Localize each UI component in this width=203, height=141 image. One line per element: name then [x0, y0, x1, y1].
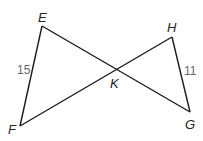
measure-label-ef: 15	[17, 63, 31, 77]
vertex-label-f: F	[8, 122, 17, 137]
measure-label-hg: 11	[184, 64, 197, 78]
geometry-diagram: E F H G K 15 11	[0, 0, 203, 141]
vertex-label-e: E	[38, 10, 47, 25]
vertex-label-h: H	[167, 20, 177, 35]
vertex-label-k: K	[110, 76, 120, 91]
segment-fh	[20, 37, 172, 126]
vertex-label-g: G	[185, 117, 195, 132]
